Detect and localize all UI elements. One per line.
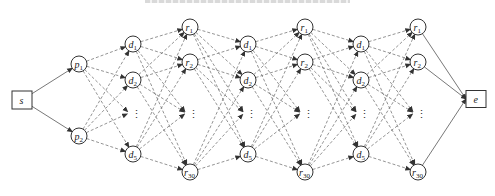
edge-arrow — [308, 51, 358, 164]
d-node-col1-d2: d2 — [125, 72, 141, 88]
edge-arrow — [309, 87, 357, 165]
r-node-col3-r30: r30 — [410, 164, 426, 180]
edge-arrow — [256, 156, 298, 169]
d-node-col1-d5: d5 — [125, 146, 141, 162]
edge-arrow — [422, 99, 466, 165]
edge-arrow — [138, 50, 185, 111]
edge-arrow — [87, 139, 126, 152]
edge-arrow — [256, 64, 298, 77]
edge-arrow — [364, 34, 414, 146]
edge-arrow — [311, 32, 355, 74]
d-node-col2-d1: d1 — [240, 36, 256, 52]
r-ellipsis-col2: ⋮ — [303, 108, 314, 120]
edge-arrow — [31, 68, 72, 94]
edge-arrow — [194, 87, 243, 165]
edge-arrow — [141, 156, 183, 169]
edge-arrow — [196, 32, 242, 74]
edge-arrow — [313, 46, 354, 59]
d-node-col2-d2: d2 — [240, 72, 256, 88]
svg-text:s: s — [20, 95, 24, 106]
r-node-col1-r30: r30 — [182, 164, 198, 180]
edge-arrow — [253, 50, 300, 111]
layered-network-diagram: sp1p2d1d2d5⋮d1d2d5⋮d1d2d5⋮r1r2r30⋮r1r2r3… — [0, 0, 495, 196]
edge-arrow — [365, 87, 414, 165]
r-node-col2-r30: r30 — [297, 164, 313, 180]
sink-node-e: e — [466, 91, 486, 108]
edge-arrow — [87, 47, 126, 61]
edge-arrow — [366, 50, 413, 111]
r-node-col2-r1: r1 — [297, 19, 313, 35]
r-node-col1-r2: r2 — [182, 54, 198, 70]
edge-arrow — [313, 156, 354, 169]
edge-arrow — [252, 87, 301, 165]
edge-arrow — [83, 51, 129, 129]
edge-arrow — [139, 32, 184, 74]
edge-arrow — [198, 46, 241, 59]
edge-arrow — [198, 156, 241, 169]
edge-arrow — [422, 34, 466, 99]
edge-arrow — [140, 84, 185, 112]
node-p1: p1 — [71, 56, 87, 72]
r-node-col3-r1: r1 — [410, 19, 426, 35]
edge-arrow — [367, 32, 412, 74]
edge-arrow — [31, 106, 72, 132]
edge-arrow — [424, 67, 466, 99]
d-ellipsis-col3: ⋮ — [359, 108, 370, 120]
edge-arrow — [308, 34, 358, 146]
edge-arrow — [369, 64, 411, 77]
r-ellipsis-col1: ⋮ — [188, 108, 199, 120]
svg-text:e: e — [474, 94, 479, 105]
edge-arrow — [310, 115, 355, 166]
nodes-layer: sp1p2d1d2d5⋮d1d2d5⋮d1d2d5⋮r1r2r30⋮r1r2r3… — [12, 19, 486, 180]
r-node-col2-r2: r2 — [297, 54, 313, 70]
edge-arrow — [193, 34, 244, 146]
source-node-s: s — [12, 91, 32, 109]
edge-arrow — [193, 51, 244, 164]
r-ellipsis-col3: ⋮ — [416, 108, 427, 120]
d-node-col3-d5: d5 — [353, 146, 369, 162]
d-ellipsis-col2: ⋮ — [246, 108, 257, 120]
d-ellipsis-col1: ⋮ — [131, 108, 142, 120]
edge-arrow — [87, 66, 126, 77]
d-node-col2-d5: d5 — [240, 146, 256, 162]
edge-arrow — [195, 114, 242, 166]
r-node-col3-r2: r2 — [410, 54, 426, 70]
edge-arrow — [369, 156, 411, 169]
edge-arrow — [136, 34, 186, 146]
node-p2: p2 — [71, 128, 87, 144]
d-node-col3-d1: d1 — [353, 36, 369, 52]
edge-arrow — [137, 87, 186, 165]
edge-arrow — [85, 70, 128, 112]
edge-arrow — [255, 84, 300, 112]
edge-arrow — [368, 84, 413, 112]
edge-arrow — [254, 32, 299, 74]
edge-arrow — [141, 64, 183, 77]
d-node-col1-d1: d1 — [125, 36, 141, 52]
d-node-col3-d2: d2 — [353, 72, 369, 88]
r-node-col1-r1: r1 — [182, 19, 198, 35]
edge-arrow — [86, 114, 127, 133]
edge-arrow — [83, 71, 129, 147]
edge-arrow — [251, 34, 301, 146]
